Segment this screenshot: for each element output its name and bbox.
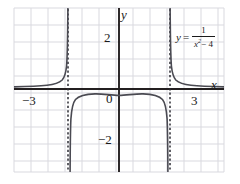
function-graph-figure: y x −3 0 3 2 −2 y = 1 x2− 4	[0, 0, 240, 184]
equation-fraction: 1 x2− 4	[192, 26, 215, 49]
equation-equals-sign: =	[183, 32, 189, 43]
x-axis-label: x	[211, 78, 217, 91]
x-tick-label-neg3: −3	[22, 94, 36, 107]
denominator-rest: − 4	[201, 39, 213, 49]
equation-lhs: y	[176, 32, 181, 43]
equation-denominator: x2− 4	[192, 37, 215, 49]
equation-numerator: 1	[199, 26, 208, 36]
y-tick-label-neg2: −2	[98, 133, 112, 146]
origin-label: 0	[106, 92, 113, 105]
equation-annotation: y = 1 x2− 4	[176, 26, 215, 49]
y-axis-label: y	[121, 8, 127, 21]
x-tick-label-3: 3	[191, 94, 198, 107]
y-tick-label-2: 2	[104, 31, 111, 44]
